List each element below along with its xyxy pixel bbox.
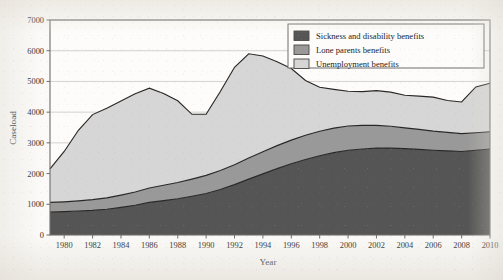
chart-legend: Sickness and disability benefitsLone par… xyxy=(288,24,484,69)
x-tick-label: 2006 xyxy=(425,241,442,250)
x-tick-label: 2010 xyxy=(482,241,499,250)
legend-label: Lone parents benefits xyxy=(316,45,391,55)
x-tick-label: 1998 xyxy=(311,241,328,250)
x-tick-label: 2000 xyxy=(340,241,357,250)
x-tick-label: 1980 xyxy=(56,241,73,250)
y-tick-label: 6000 xyxy=(27,47,44,56)
y-tick-label: 1000 xyxy=(27,200,44,209)
x-tick-label: 1990 xyxy=(198,241,215,250)
x-tick-label: 1986 xyxy=(141,241,158,250)
x-axis-title: Year xyxy=(260,257,277,267)
y-tick-label: 3000 xyxy=(27,139,44,148)
legend-label: Sickness and disability benefits xyxy=(316,31,425,41)
y-tick-label: 5000 xyxy=(27,77,44,86)
x-tick-label: 2004 xyxy=(396,241,414,250)
x-tick-label: 2008 xyxy=(453,241,470,250)
x-tick-label: 1988 xyxy=(169,241,186,250)
chart-canvas: 01000200030004000500060007000 1980198219… xyxy=(0,0,503,280)
legend-swatch xyxy=(294,45,309,55)
x-tick-label: 1984 xyxy=(113,241,131,250)
y-tick-label: 2000 xyxy=(27,170,44,179)
legend-label: Unemployment benefits xyxy=(316,59,399,69)
x-tick-label: 2002 xyxy=(368,241,385,250)
x-tick-label: 1996 xyxy=(283,241,300,250)
stacked-area-chart: 01000200030004000500060007000 1980198219… xyxy=(0,0,503,280)
x-tick-label: 1992 xyxy=(226,241,243,250)
legend-swatch xyxy=(294,31,309,41)
y-tick-label: 7000 xyxy=(27,16,44,25)
y-tick-label: 0 xyxy=(40,231,44,240)
legend-swatch xyxy=(294,59,309,69)
y-axis: 01000200030004000500060007000 xyxy=(27,16,50,240)
x-tick-label: 1994 xyxy=(255,241,273,250)
y-tick-label: 4000 xyxy=(27,108,44,117)
y-axis-title: Caseload xyxy=(8,111,18,145)
x-tick-label: 1982 xyxy=(84,241,101,250)
x-axis: 1980198219841986198819901992199419961998… xyxy=(56,235,499,250)
